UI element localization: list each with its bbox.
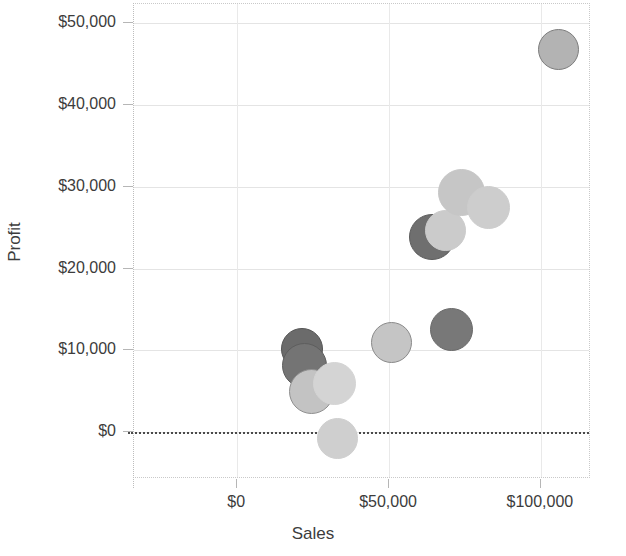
y-axis-spine: [133, 3, 134, 488]
x-axis-tick: [236, 479, 237, 488]
scatter-point[interactable]: [430, 308, 473, 351]
x-axis-tick: [388, 479, 389, 488]
y-axis-label: $10,000: [0, 341, 116, 357]
gridline-horizontal: [134, 187, 589, 188]
plot-area: [133, 3, 590, 478]
scatter-point[interactable]: [538, 29, 579, 70]
x-axis-label: $50,000: [308, 494, 468, 510]
scatter-point[interactable]: [313, 362, 356, 405]
x-axis-tick: [540, 479, 541, 488]
y-axis-tick: [123, 22, 133, 23]
gridline-vertical: [237, 4, 238, 477]
scatter-point[interactable]: [467, 186, 510, 229]
gridline-horizontal: [134, 269, 589, 270]
y-axis-tick: [123, 349, 133, 350]
x-axis-label: $100,000: [460, 494, 620, 510]
zero-reference-line: [128, 432, 589, 434]
y-axis-label: $40,000: [0, 96, 116, 112]
y-axis-label: $30,000: [0, 178, 116, 194]
y-axis-title: Profit: [5, 182, 25, 302]
y-axis-tick: [123, 186, 133, 187]
gridline-horizontal: [134, 105, 589, 106]
y-axis-tick: [123, 104, 133, 105]
scatter-point[interactable]: [317, 418, 358, 459]
y-axis-label: $20,000: [0, 260, 116, 276]
scatter-chart: Profit Sales $0$10,000$20,000$30,000$40,…: [0, 0, 626, 556]
gridline-vertical: [389, 4, 390, 477]
gridline-horizontal: [134, 23, 589, 24]
y-axis-tick: [123, 268, 133, 269]
x-axis-label: $0: [156, 494, 316, 510]
scatter-point[interactable]: [425, 210, 466, 251]
x-axis-title: Sales: [0, 524, 626, 544]
gridline-vertical: [541, 4, 542, 477]
y-axis-tick: [123, 431, 133, 432]
y-axis-label: $0: [0, 423, 116, 439]
scatter-point[interactable]: [371, 322, 412, 363]
y-axis-label: $50,000: [0, 14, 116, 30]
gridline-horizontal: [134, 350, 589, 351]
